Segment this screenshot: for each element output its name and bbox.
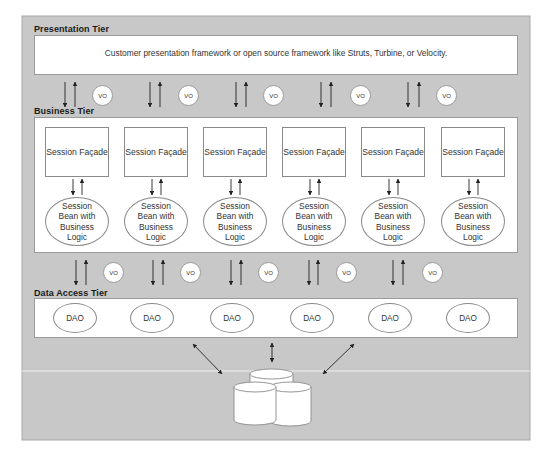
architecture-diagram: Presentation Tier Customer presentation … [0, 0, 542, 451]
dao-ellipse: DAO [53, 303, 97, 333]
value-object-circle: VO [422, 262, 443, 283]
dao-ellipse: DAO [210, 303, 254, 333]
data-access-tier-label: Data Access Tier [34, 288, 108, 298]
value-object-circle: VO [92, 85, 113, 106]
session-facade-box: Session Façade [361, 127, 425, 177]
value-object-circle: VO [263, 85, 284, 106]
presentation-tier-description: Customer presentation framework or open … [35, 48, 517, 58]
presentation-tier-label: Presentation Tier [34, 24, 109, 34]
session-facade-box: Session Façade [441, 127, 505, 177]
value-object-circle: VO [436, 85, 457, 106]
session-facade-box: Session Façade [203, 127, 267, 177]
session-bean-ellipse: SessionBean withBusinessLogic [203, 197, 267, 246]
session-bean-label: SessionBean withBusinessLogic [296, 201, 333, 243]
session-bean-label: SessionBean withBusinessLogic [59, 201, 96, 243]
dao-ellipse: DAO [446, 303, 490, 333]
session-bean-ellipse: SessionBean withBusinessLogic [441, 197, 505, 246]
session-bean-label: SessionBean withBusinessLogic [455, 201, 492, 243]
value-object-circle: VO [336, 262, 357, 283]
value-object-circle: VO [258, 262, 279, 283]
session-bean-ellipse: SessionBean withBusinessLogic [124, 197, 188, 246]
session-facade-box: Session Façade [45, 127, 109, 177]
session-bean-ellipse: SessionBean withBusinessLogic [361, 197, 425, 246]
value-object-circle: VO [350, 85, 371, 106]
value-object-circle: VO [180, 262, 201, 283]
dao-ellipse: DAO [290, 303, 334, 333]
business-tier-label: Business Tier [34, 106, 94, 116]
presentation-tier-box: Customer presentation framework or open … [34, 35, 518, 75]
value-object-circle: VO [178, 85, 199, 106]
session-bean-label: SessionBean withBusinessLogic [138, 201, 175, 243]
session-bean-ellipse: SessionBean withBusinessLogic [45, 197, 109, 246]
session-facade-box: Session Façade [282, 127, 346, 177]
session-bean-label: SessionBean withBusinessLogic [375, 201, 412, 243]
session-facade-box: Session Façade [124, 127, 188, 177]
dao-ellipse: DAO [368, 303, 412, 333]
dao-ellipse: DAO [130, 303, 174, 333]
value-object-circle: VO [103, 262, 124, 283]
session-bean-label: SessionBean withBusinessLogic [217, 201, 254, 243]
session-bean-ellipse: SessionBean withBusinessLogic [282, 197, 346, 246]
